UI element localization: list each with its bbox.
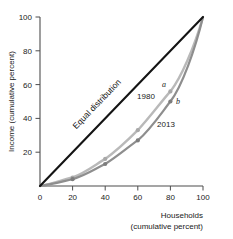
x-tick-label-0: 0 (38, 193, 43, 202)
annotation-series-2013: 2013 (157, 120, 175, 129)
series-2013-marker-20 (71, 177, 75, 181)
x-tick-label-40: 40 (101, 193, 110, 202)
series-2013-marker-80-point-b (168, 99, 172, 103)
series-1980-marker-60 (136, 128, 140, 132)
annotation-point-b: b (176, 97, 180, 106)
y-tick-label-80: 80 (23, 47, 32, 56)
x-tick-label-100: 100 (196, 193, 210, 202)
y-tick-label-20: 20 (23, 148, 32, 157)
x-tick-label-20: 20 (68, 193, 77, 202)
lorenz-curve-figure: 100 80 60 40 20 Income (cumulative perce… (0, 0, 233, 239)
x-tick-label-60: 60 (133, 193, 142, 202)
x-tick-label-80: 80 (166, 193, 175, 202)
series-1980-marker-40 (103, 157, 107, 161)
series-2013-marker-60 (136, 138, 140, 142)
annotation-point-a: a (162, 80, 166, 89)
series-2013-marker-40 (103, 162, 107, 166)
y-tick-label-60: 60 (23, 81, 32, 90)
y-axis-title: Income (cumulative percent) (7, 51, 16, 152)
annotation-series-1980: 1980 (137, 92, 155, 101)
series-1980-marker-80-point-a (168, 89, 172, 93)
y-tick-label-40: 40 (23, 114, 32, 123)
x-axis-title-sub: (cumulative percent) (131, 222, 204, 231)
chart-canvas: 100 80 60 40 20 Income (cumulative perce… (0, 0, 233, 239)
x-axis-title: Households (161, 211, 203, 220)
y-tick-label-100: 100 (19, 13, 33, 22)
